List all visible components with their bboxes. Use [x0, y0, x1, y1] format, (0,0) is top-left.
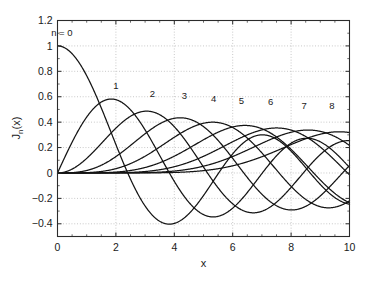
- curve-label: 1: [113, 80, 118, 91]
- curve-label: n = 0: [51, 27, 72, 38]
- x-tick-label: 8: [288, 241, 294, 253]
- x-axis-title: x: [201, 257, 207, 269]
- y-tick-label: 0.2: [38, 141, 53, 153]
- y-tick-label: 0.6: [38, 90, 53, 102]
- x-tick-label: 6: [230, 241, 236, 253]
- x-tick-label: 4: [171, 241, 177, 253]
- x-tick-label: 2: [113, 241, 119, 253]
- curve-label: 3: [182, 90, 187, 101]
- y-tick-label: 0.4: [38, 116, 53, 128]
- y-tick-label: 0: [47, 167, 53, 179]
- bessel-function-chart: 0246810 −0.4−0.200.20.40.60.811.2 n = 01…: [0, 0, 365, 282]
- y-tick-label: 0.8: [38, 65, 53, 77]
- y-tick-label: −0.2: [32, 192, 53, 204]
- x-tick-label: 0: [55, 241, 61, 253]
- curve-label: 4: [211, 93, 216, 104]
- curve-label: 5: [239, 95, 244, 106]
- y-axis-title-arg: (x): [10, 117, 22, 130]
- x-tick-label: 10: [344, 241, 356, 253]
- curve-label: 2: [150, 88, 155, 99]
- curve-label: 6: [268, 96, 273, 107]
- y-tick-label: 1.2: [38, 14, 53, 26]
- y-tick-label: 1: [47, 40, 53, 52]
- curve-label: 8: [329, 100, 334, 111]
- figure-canvas: 0246810 −0.4−0.200.20.40.60.811.2 n = 01…: [0, 0, 365, 282]
- y-tick-label: −0.4: [32, 217, 53, 229]
- curve-label: 7: [302, 100, 307, 111]
